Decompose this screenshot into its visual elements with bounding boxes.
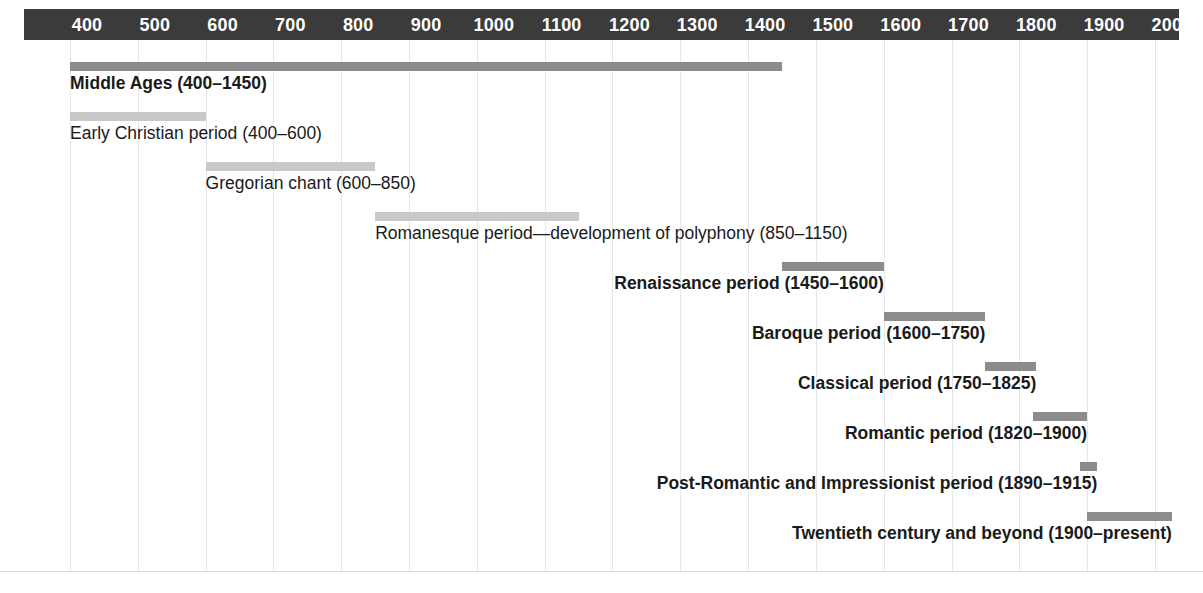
axis-tick-1300: 1300: [677, 16, 718, 34]
period-bar: [206, 162, 376, 171]
axis-tick-900: 900: [411, 16, 442, 34]
period-bar: [70, 62, 782, 71]
period-bar: [1033, 412, 1087, 421]
axis-tick-1800: 1800: [1016, 16, 1057, 34]
period-label: Early Christian period (400–600): [70, 123, 322, 145]
axis-tick-1700: 1700: [948, 16, 989, 34]
axis-tick-1600: 1600: [880, 16, 921, 34]
axis-tick-600: 600: [207, 16, 238, 34]
period-bar: [70, 112, 206, 121]
period-bar: [1087, 512, 1172, 521]
period-label: Romanesque period—development of polypho…: [375, 223, 848, 245]
axis-tick-700: 700: [275, 16, 306, 34]
period-label: Classical period (1750–1825): [798, 373, 1036, 395]
timeline-row: Romantic period (1820–1900): [0, 412, 1203, 462]
century-axis-header: 4005006007008009001000110012001300140015…: [24, 9, 1179, 40]
period-label: Twentieth century and beyond (1900–prese…: [792, 523, 1172, 545]
period-label: Post-Romantic and Impressionist period (…: [657, 473, 1098, 495]
period-bar: [782, 262, 884, 271]
timeline-row: Baroque period (1600–1750): [0, 312, 1203, 362]
axis-tick-400: 400: [72, 16, 103, 34]
axis-tick-500: 500: [139, 16, 170, 34]
timeline-row: Gregorian chant (600–850): [0, 162, 1203, 212]
timeline-row: Romanesque period—development of polypho…: [0, 212, 1203, 262]
music-history-timeline: 4005006007008009001000110012001300140015…: [0, 0, 1203, 593]
axis-tick-800: 800: [343, 16, 374, 34]
axis-tick-1400: 1400: [745, 16, 786, 34]
timeline-row: Early Christian period (400–600): [0, 112, 1203, 162]
period-bar: [985, 362, 1036, 371]
period-label: Baroque period (1600–1750): [752, 323, 985, 345]
axis-tick-1000: 1000: [473, 16, 514, 34]
period-label: Gregorian chant (600–850): [206, 173, 416, 195]
period-bar: [1080, 462, 1097, 471]
timeline-row: Middle Ages (400–1450): [0, 62, 1203, 112]
axis-tick-1900: 1900: [1084, 16, 1125, 34]
axis-tick-2000: 2000: [1152, 16, 1193, 34]
period-label: Romantic period (1820–1900): [845, 423, 1087, 445]
timeline-plot-area: Middle Ages (400–1450)Early Christian pe…: [0, 40, 1203, 593]
timeline-row: Renaissance period (1450–1600): [0, 262, 1203, 312]
axis-tick-1500: 1500: [812, 16, 853, 34]
period-bar: [884, 312, 986, 321]
timeline-row: Twentieth century and beyond (1900–prese…: [0, 512, 1203, 562]
axis-tick-1100: 1100: [542, 16, 582, 34]
period-label: Middle Ages (400–1450): [70, 73, 267, 95]
axis-tick-1200: 1200: [609, 16, 650, 34]
plot-baseline: [0, 571, 1203, 572]
period-bar: [375, 212, 578, 221]
timeline-row: Classical period (1750–1825): [0, 362, 1203, 412]
timeline-row: Post-Romantic and Impressionist period (…: [0, 462, 1203, 512]
period-label: Renaissance period (1450–1600): [614, 273, 883, 295]
